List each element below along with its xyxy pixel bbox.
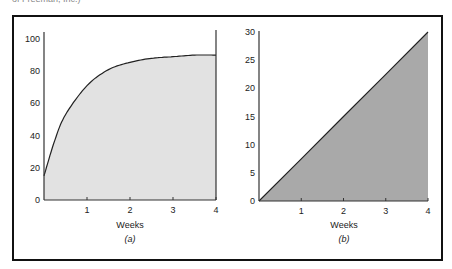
chart-b: 1234051015202530 Weeks (b) <box>245 27 431 244</box>
chart-b-panel-label: (b) <box>339 234 350 244</box>
chart-a: 1234020406080100 Weeks (a) <box>25 30 219 244</box>
x-tick-label: 2 <box>127 205 132 215</box>
y-tick-label: 10 <box>245 140 255 150</box>
y-tick-label: 20 <box>30 163 40 173</box>
chart-a-panel-label: (a) <box>125 234 136 244</box>
y-tick-label: 5 <box>250 168 255 178</box>
x-tick-label: 3 <box>383 206 388 216</box>
y-tick-label: 20 <box>245 83 255 93</box>
y-tick-label: 40 <box>30 131 40 141</box>
x-tick-label: 4 <box>213 205 218 215</box>
y-tick-label: 0 <box>35 195 40 205</box>
y-tick-label: 60 <box>30 98 40 108</box>
x-tick-label: 1 <box>299 206 304 216</box>
x-tick-label: 1 <box>84 205 89 215</box>
chart-a-area <box>44 55 216 200</box>
y-tick-label: 25 <box>245 55 255 65</box>
y-tick-label: 15 <box>245 112 255 122</box>
chart-b-xlabel: Weeks <box>330 220 358 230</box>
y-tick-label: 0 <box>250 196 255 206</box>
y-tick-label: 100 <box>25 34 40 44</box>
x-tick-label: 3 <box>170 205 175 215</box>
y-tick-label: 30 <box>245 27 255 37</box>
y-tick-label: 80 <box>30 66 40 76</box>
chart-a-xlabel: Weeks <box>116 220 144 230</box>
figure-canvas: 1234020406080100 Weeks (a) 1234051015202… <box>0 0 452 269</box>
x-tick-label: 2 <box>341 206 346 216</box>
x-tick-label: 4 <box>425 206 430 216</box>
